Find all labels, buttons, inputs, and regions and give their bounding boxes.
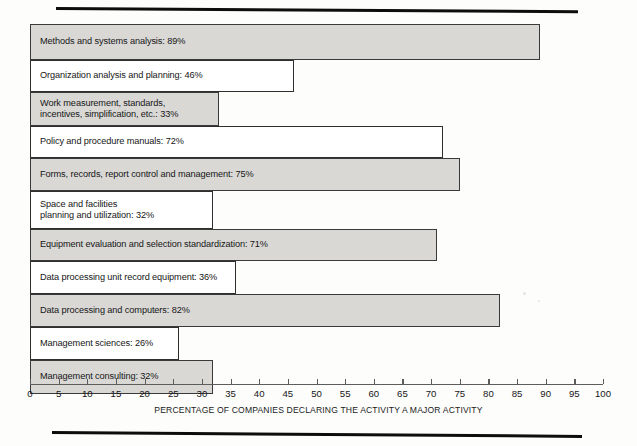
x-axis-tick bbox=[259, 379, 260, 384]
x-axis-tick-label: 50 bbox=[311, 388, 322, 399]
bar-label: Management sciences: 26% bbox=[31, 338, 153, 349]
x-axis-tick-label: 70 bbox=[426, 388, 437, 399]
x-axis-tick bbox=[488, 379, 489, 384]
bar[interactable]: Organization analysis and planning: 46% bbox=[30, 60, 294, 92]
x-axis-tick-label: 80 bbox=[483, 388, 494, 399]
x-axis-tick-label: 35 bbox=[225, 388, 236, 399]
bar-label: Methods and systems analysis: 89% bbox=[31, 36, 185, 47]
bar[interactable]: Methods and systems analysis: 89% bbox=[30, 24, 540, 60]
x-axis-tick bbox=[402, 379, 403, 384]
x-axis-tick-label: 95 bbox=[569, 388, 580, 399]
x-axis-tick-label: 10 bbox=[82, 388, 93, 399]
x-axis-tick bbox=[116, 379, 117, 384]
bar[interactable]: Forms, records, report control and manag… bbox=[30, 158, 460, 191]
bar-label: Work measurement, standards, incentives,… bbox=[31, 98, 178, 121]
x-axis-tick bbox=[87, 379, 88, 384]
bar-label: Management consulting: 32% bbox=[31, 371, 158, 382]
x-axis-tick-label: 40 bbox=[254, 388, 265, 399]
bar[interactable]: Data processing unit record equipment: 3… bbox=[30, 261, 236, 294]
x-axis-tick-label: 45 bbox=[283, 388, 294, 399]
x-axis-tick bbox=[345, 379, 346, 384]
x-axis-tick bbox=[603, 379, 604, 384]
x-axis-tick-label: 100 bbox=[595, 388, 611, 399]
x-axis-tick-label: 75 bbox=[454, 388, 465, 399]
bar[interactable]: Work measurement, standards, incentives,… bbox=[30, 92, 219, 126]
x-axis-tick bbox=[145, 379, 146, 384]
x-axis-tick bbox=[231, 379, 232, 384]
x-axis-tick bbox=[431, 379, 432, 384]
x-axis-tick-label: 90 bbox=[540, 388, 551, 399]
bar-label: Organization analysis and planning: 46% bbox=[31, 70, 203, 81]
x-axis-tick-label: 60 bbox=[368, 388, 379, 399]
x-axis-tick bbox=[374, 379, 375, 384]
x-axis-tick-label: 55 bbox=[340, 388, 351, 399]
x-axis-tick-label: 20 bbox=[139, 388, 150, 399]
x-axis-tick bbox=[574, 379, 575, 384]
x-axis-title: PERCENTAGE OF COMPANIES DECLARING THE AC… bbox=[0, 405, 637, 415]
bar[interactable]: Policy and procedure manuals: 72% bbox=[30, 126, 443, 158]
scan-speckle bbox=[538, 300, 540, 302]
bar[interactable]: Data processing and computers: 82% bbox=[30, 294, 500, 327]
bar-label: Data processing and computers: 82% bbox=[31, 305, 190, 316]
x-axis-tick-label: 30 bbox=[197, 388, 208, 399]
bar[interactable]: Management sciences: 26% bbox=[30, 327, 179, 360]
x-axis-tick-label: 15 bbox=[111, 388, 122, 399]
x-axis-tick bbox=[59, 379, 60, 384]
bar[interactable]: Equipment evaluation and selection stand… bbox=[30, 229, 437, 261]
bar-label: Forms, records, report control and manag… bbox=[31, 169, 254, 180]
bar-label: Policy and procedure manuals: 72% bbox=[31, 136, 184, 147]
x-axis-tick bbox=[288, 379, 289, 384]
x-axis-tick bbox=[202, 379, 203, 384]
horizontal-bar-chart: Methods and systems analysis: 89%Organiz… bbox=[0, 0, 637, 446]
x-axis-tick bbox=[317, 379, 318, 384]
x-axis-tick-label: 65 bbox=[397, 388, 408, 399]
scan-speckle bbox=[523, 292, 526, 295]
x-axis-tick-label: 25 bbox=[168, 388, 179, 399]
bar-label: Space and facilities planning and utiliz… bbox=[31, 199, 154, 222]
x-axis-tick bbox=[460, 379, 461, 384]
x-axis-tick bbox=[30, 379, 31, 384]
bar-label: Data processing unit record equipment: 3… bbox=[31, 272, 217, 283]
bar[interactable]: Space and facilities planning and utiliz… bbox=[30, 191, 213, 229]
x-axis-tick bbox=[173, 379, 174, 384]
x-axis-tick bbox=[546, 379, 547, 384]
x-axis-line bbox=[30, 384, 603, 385]
x-axis-tick-label: 5 bbox=[56, 388, 61, 399]
x-axis-tick-label: 85 bbox=[512, 388, 523, 399]
x-axis-tick bbox=[517, 379, 518, 384]
bar-label: Equipment evaluation and selection stand… bbox=[31, 239, 268, 250]
x-axis-tick-label: 0 bbox=[27, 388, 32, 399]
